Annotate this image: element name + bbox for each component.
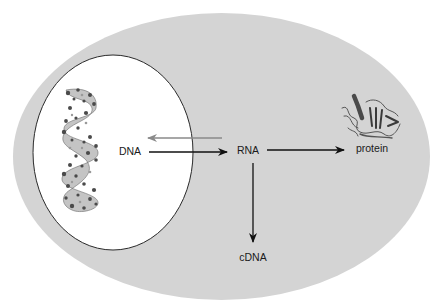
dna-label: DNA <box>119 146 141 157</box>
protein-label: protein <box>356 143 388 154</box>
central-dogma-diagram: DNA RNA protein cDNA <box>0 0 447 308</box>
rna-label: RNA <box>237 145 259 156</box>
diagram-canvas <box>0 0 447 308</box>
cdna-label: cDNA <box>239 252 266 263</box>
